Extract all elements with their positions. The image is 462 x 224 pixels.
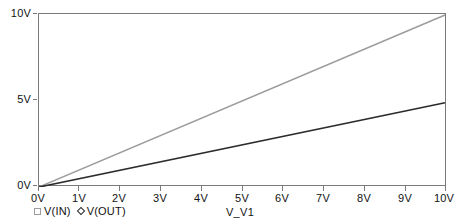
x-tick-mark-5v — [242, 186, 243, 191]
x-tick-label-1v: 1V — [59, 192, 99, 204]
y-tick-mark-10v — [33, 13, 37, 14]
x-tick-label-2v: 2V — [99, 192, 139, 204]
square-marker-icon — [34, 208, 41, 215]
y-tick-label-0v: 0V — [0, 180, 31, 191]
legend-item-v-out[interactable]: V(OUT) — [78, 205, 126, 217]
x-tick-label-9v: 9V — [385, 192, 425, 204]
x-tick-label-4v: 4V — [181, 192, 221, 204]
legend-label-v-in: V(IN) — [44, 205, 71, 217]
chart-container: 10V 5V 0V 0V 1V 2V 3V 4V 5V 6V 7V — [0, 0, 462, 224]
x-tick-label-5v: 5V — [222, 192, 262, 204]
plot-area — [38, 13, 446, 186]
series-line-v-out — [39, 103, 445, 187]
plot-svg — [39, 14, 447, 187]
x-tick-label-6v: 6V — [262, 192, 302, 204]
x-tick-mark-2v — [119, 186, 120, 191]
x-tick-label-7v: 7V — [303, 192, 343, 204]
y-tick-label-10v: 10V — [0, 8, 31, 19]
legend-item-v-in[interactable]: V(IN) — [34, 205, 71, 217]
x-tick-mark-6v — [282, 186, 283, 191]
diamond-marker-icon — [76, 207, 84, 215]
y-tick-mark-0v — [33, 185, 37, 186]
x-tick-mark-1v — [78, 186, 79, 191]
y-tick-label-5v: 5V — [0, 94, 31, 105]
x-tick-label-10v: 10V — [424, 192, 462, 204]
series-line-v-in — [39, 15, 445, 187]
x-tick-label-0v: 0V — [18, 192, 58, 204]
x-tick-mark-4v — [201, 186, 202, 191]
x-axis-title-text: V_V1 — [226, 206, 254, 218]
legend-label-v-out: V(OUT) — [87, 205, 126, 217]
x-tick-mark-3v — [160, 186, 161, 191]
x-tick-mark-0v — [38, 186, 39, 191]
x-tick-mark-9v — [405, 186, 406, 191]
x-tick-mark-7v — [323, 186, 324, 191]
x-tick-label-8v: 8V — [344, 192, 384, 204]
x-tick-mark-8v — [364, 186, 365, 191]
chart-legend: V(IN) V(OUT) — [34, 205, 126, 217]
y-tick-mark-5v — [33, 99, 37, 100]
x-tick-label-3v: 3V — [140, 192, 180, 204]
x-tick-mark-10v — [445, 186, 446, 191]
